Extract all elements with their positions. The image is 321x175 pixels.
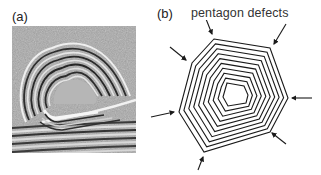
tem-micrograph bbox=[12, 26, 136, 153]
defect-arrow bbox=[198, 157, 203, 170]
defect-arrows bbox=[151, 20, 312, 170]
defect-arrow bbox=[272, 133, 286, 144]
pentagon-defects-annotation: pentagon defects bbox=[191, 7, 289, 20]
defect-arrow bbox=[206, 20, 212, 34]
defect-arrow bbox=[170, 47, 186, 60]
defect-arrow bbox=[274, 24, 286, 44]
shell-layer bbox=[223, 83, 248, 106]
nested-heptagon-diagram bbox=[150, 20, 321, 175]
shell-layer bbox=[199, 59, 271, 132]
panel-label-a: (a) bbox=[12, 10, 28, 23]
shell-layer bbox=[184, 44, 284, 147]
nested-shells bbox=[179, 39, 288, 152]
defect-arrow bbox=[151, 112, 174, 117]
panel-label-b: (b) bbox=[157, 7, 173, 20]
